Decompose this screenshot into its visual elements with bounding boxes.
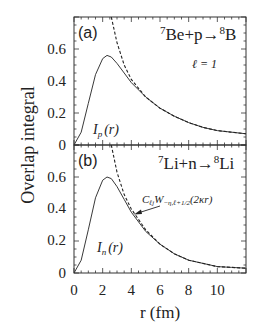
annotation-arrow (134, 206, 160, 215)
overlap-curve (74, 177, 246, 273)
ytick-a-0: 0 (59, 137, 67, 153)
x-tick-labels: 0 2 4 6 8 10 (70, 282, 225, 298)
plot-frame (74, 17, 246, 145)
xtick-10: 10 (210, 282, 225, 298)
xtick-0: 0 (70, 282, 78, 298)
ell-annotation: ℓ = 1 (192, 57, 217, 71)
reaction-b: 7Li+n→8Li (158, 153, 235, 173)
ytick-b-0.6: 0.6 (47, 169, 66, 185)
y-tick-labels-b: 0.6 0.4 0.2 0 (47, 169, 66, 281)
panel-a-label: (a) (78, 24, 98, 41)
panel-b-label: (b) (78, 152, 98, 169)
xtick-2: 2 (99, 282, 107, 298)
xtick-8: 8 (185, 282, 193, 298)
reaction-a: 7Be+p→8B (160, 24, 236, 44)
y-tick-labels-a: 0.6 0.4 0.2 0 (47, 41, 66, 153)
ip-label: Ip(r) (92, 122, 119, 139)
ytick-b-0.2: 0.2 (47, 232, 66, 248)
overlap-integral-chart: 0.6 0.4 0.2 0 0.6 0.4 0.2 0 0 2 4 6 8 10… (0, 0, 257, 332)
y-axis-label: Overlap integral (18, 86, 38, 203)
whittaker-annotation: CℓjW−η,ℓ+1/2(2κr) (142, 193, 213, 207)
ytick-a-0.4: 0.4 (47, 73, 66, 89)
ytick-a-0.2: 0.2 (47, 105, 66, 121)
ytick-b-0: 0 (59, 265, 67, 281)
x-axis-label: r (fm) (140, 303, 180, 322)
xtick-4: 4 (128, 282, 136, 298)
panel-a (74, 17, 246, 145)
ytick-b-0.4: 0.4 (47, 200, 66, 216)
ytick-a-0.6: 0.6 (47, 41, 66, 57)
xtick-6: 6 (156, 282, 164, 298)
in-label: In(r) (96, 240, 123, 257)
